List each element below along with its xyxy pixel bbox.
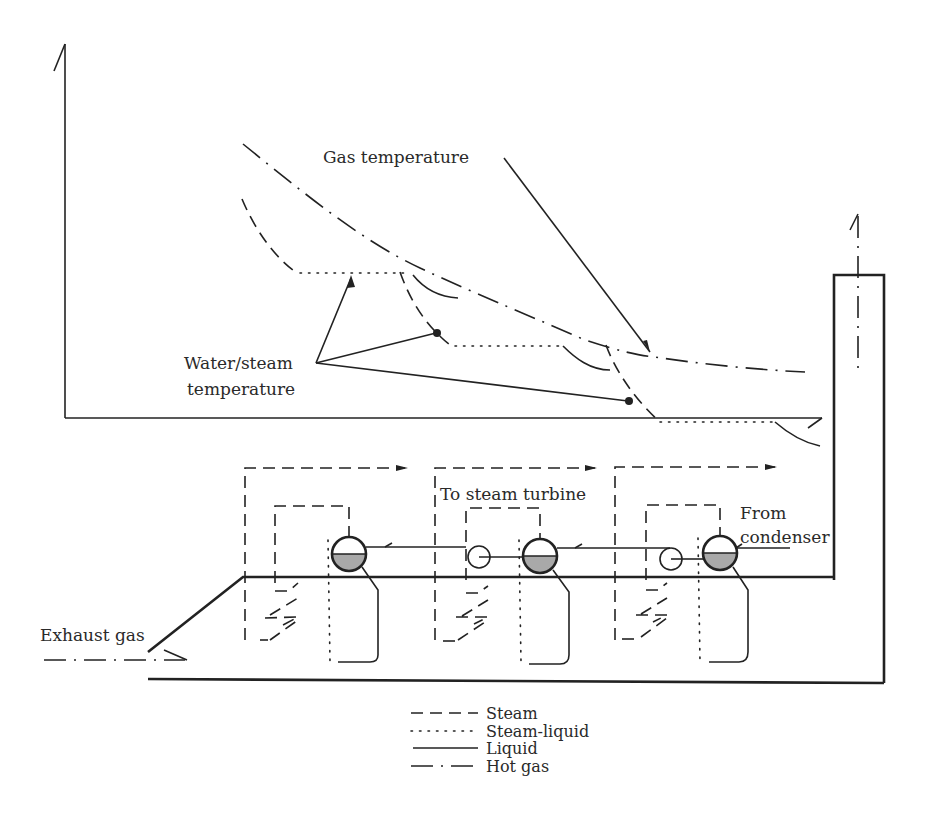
hp-downcomer	[338, 567, 378, 662]
hrsg-diagram: Gas temperature Water/steam temperature …	[0, 0, 927, 823]
leader-arrow-icon	[347, 275, 355, 288]
gas-temperature-curve	[243, 144, 805, 372]
duct-top-wall	[148, 577, 834, 652]
duct-bottom-wall	[148, 679, 884, 683]
y-axis-arrow-icon	[54, 44, 65, 71]
ip-drum	[523, 539, 557, 573]
hp-evaporator-riser	[328, 540, 330, 662]
ip-superheater-coil	[456, 586, 488, 640]
stack	[834, 214, 884, 683]
gas-temperature-leader	[504, 158, 650, 352]
x-axis-arrow-icon	[808, 418, 822, 428]
hp-superheater-coil	[265, 583, 298, 640]
lp-drum	[703, 536, 737, 570]
from-condenser-label-line1: From	[740, 503, 786, 523]
steam-arrow-icon	[396, 465, 408, 471]
leader-dot-icon	[625, 397, 633, 405]
leader-dot-icon	[433, 329, 441, 337]
exhaust-arrow-icon	[164, 650, 187, 660]
hp-superheater-loop	[275, 506, 349, 583]
stage-ip: To steam turbine	[435, 465, 670, 664]
steam-curve-ip-superheat	[400, 272, 450, 345]
liquid-hp-economizer	[413, 275, 458, 298]
stage-hp	[245, 465, 466, 662]
from-condenser-label-line2: condenser	[740, 527, 830, 547]
stage-lp: From condenser	[615, 464, 830, 662]
stack-arrow-icon	[850, 214, 858, 230]
lp-evaporator-riser	[698, 538, 700, 662]
lp-superheater-coil	[636, 583, 667, 637]
water-steam-leader-1	[316, 278, 351, 363]
legend-liquid-label: Liquid	[486, 739, 538, 758]
water-steam-leader-3	[316, 363, 628, 401]
steam-arrow-icon	[585, 465, 597, 471]
legend-steam-label: Steam	[486, 704, 538, 723]
leader-arrow-icon	[643, 340, 650, 352]
water-steam-label-line1: Water/steam	[184, 353, 293, 373]
hrsg-duct: Exhaust gas	[40, 577, 884, 683]
steam-curve-lp-superheat	[606, 345, 660, 422]
liquid-lp-economizer	[775, 422, 820, 446]
stack-walls	[834, 275, 884, 683]
temperature-plot: Gas temperature Water/steam temperature	[54, 44, 822, 446]
lp-superheater-loop	[646, 505, 720, 580]
hp-drum	[332, 537, 366, 571]
water-steam-leader-2	[316, 333, 436, 363]
gas-temperature-label: Gas temperature	[323, 147, 469, 167]
legend-hot-gas-label: Hot gas	[486, 757, 549, 776]
steam-curve-hp-superheat	[242, 199, 297, 273]
ip-evaporator-riser	[519, 540, 521, 662]
to-steam-turbine-label: To steam turbine	[440, 484, 586, 504]
hp-steam-outer-loop	[245, 468, 405, 640]
lp-steam-outer-loop	[615, 467, 775, 640]
ip-downcomer	[529, 570, 569, 664]
liquid-ip-economizer	[563, 346, 610, 370]
water-steam-label-line2: temperature	[187, 379, 295, 399]
steam-arrow-icon	[765, 464, 777, 470]
legend: Steam Steam-liquid Liquid Hot gas	[411, 704, 589, 776]
lp-downcomer	[709, 567, 748, 662]
exhaust-gas-label: Exhaust gas	[40, 625, 145, 645]
